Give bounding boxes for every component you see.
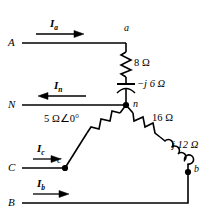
- current-label-in: In: [54, 80, 62, 94]
- current-arrow-ia-head: [74, 31, 84, 38]
- terminal-label-b: B: [8, 197, 15, 208]
- terminal-label-a: A: [8, 37, 15, 48]
- impedance-label-5-ohm-angle-0: 5 Ω∠0°: [44, 114, 79, 125]
- node-label-b: b: [194, 164, 199, 174]
- impedance-label-16-ohm: 16 Ω: [152, 113, 173, 124]
- current-subscript-ib: b: [41, 183, 45, 192]
- node-label-n: n: [133, 99, 138, 109]
- wire-n-to-resistor5: [120, 105, 126, 113]
- current-label-ic: Ic: [37, 143, 45, 157]
- resistor-5-ohm-symbol: [87, 111, 120, 133]
- current-subscript-ic: c: [41, 148, 44, 157]
- impedance-label-minus-j6-ohm: −j 6 Ω: [137, 79, 165, 90]
- terminal-label-n: N: [8, 99, 15, 110]
- current-label-ib: Ib: [37, 178, 45, 192]
- wire-resistor5-to-node-c: [65, 133, 87, 168]
- node-label-c: c: [57, 155, 61, 165]
- current-arrow-ib-head: [59, 191, 69, 198]
- terminal-label-c: C: [8, 162, 15, 173]
- wire-line-b: [22, 172, 188, 203]
- wire-resistor16-to-inductor: [160, 137, 165, 141]
- circuit-schematic-svg: [0, 0, 221, 219]
- current-subscript-in: n: [58, 85, 62, 94]
- impedance-label-j12-ohm: j 12 Ω: [172, 140, 198, 151]
- circuit-diagram: A N C B a n c b Ia In Ic Ib 8 Ω −j 6 Ω 5…: [0, 0, 221, 219]
- current-arrow-in-head: [38, 93, 48, 100]
- resistor-8-ohm-symbol: [121, 52, 131, 77]
- current-label-ia: Ia: [50, 18, 58, 32]
- node-label-a: a: [124, 23, 129, 33]
- current-subscript-ia: a: [54, 23, 58, 32]
- wire-n-to-resistor16: [126, 105, 133, 113]
- impedance-label-8-ohm: 8 Ω: [134, 58, 150, 69]
